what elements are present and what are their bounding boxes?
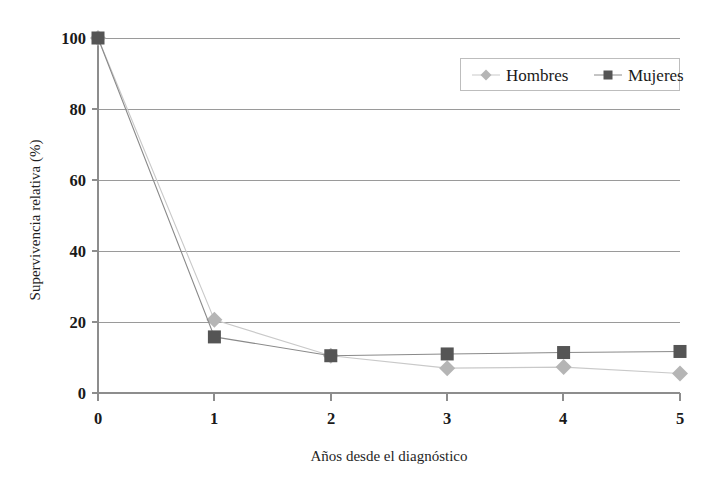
x-tick-label-1: 1: [210, 409, 218, 428]
x-tick-label-3: 3: [443, 409, 451, 428]
survival-line-chart: 100 80 60 40 20 0 0 1 2 3 4 5 Superviven…: [0, 0, 710, 495]
chart-legend: Hombres Mujeres: [461, 59, 684, 91]
square-marker-icon: [324, 349, 337, 362]
chart-container: 100 80 60 40 20 0 0 1 2 3 4 5 Superviven…: [0, 0, 710, 495]
x-axis-title: Años desde el diagnóstico: [310, 448, 467, 464]
y-tick-label-60: 60: [70, 171, 87, 190]
square-marker-icon: [208, 330, 221, 343]
y-tick-label-40: 40: [70, 242, 87, 261]
legend-label-hombres: Hombres: [506, 66, 568, 85]
y-tick-label-80: 80: [70, 100, 87, 119]
square-marker-icon: [441, 347, 454, 360]
legend-label-mujeres: Mujeres: [628, 66, 684, 85]
x-tick-label-5: 5: [676, 409, 684, 428]
y-tick-label-20: 20: [70, 313, 87, 332]
y-tick-label-100: 100: [61, 29, 86, 48]
square-marker-icon: [604, 71, 613, 80]
x-tick-label-2: 2: [327, 409, 335, 428]
y-axis-title: Supervivencia relativa (%): [27, 140, 44, 301]
square-marker-icon: [92, 32, 105, 45]
square-marker-icon: [557, 346, 570, 359]
y-tick-label-0: 0: [78, 384, 86, 403]
x-tick-label-4: 4: [559, 409, 567, 428]
square-marker-icon: [674, 345, 687, 358]
x-tick-label-0: 0: [94, 409, 102, 428]
